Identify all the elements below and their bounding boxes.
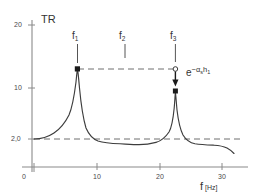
y-tick-label-10: 10 [14,84,22,91]
y-tick-label-2-0: 2,0 [11,135,21,142]
x-tick-label-20: 20 [156,173,164,180]
x-axis-unit: [Hz] [205,184,217,191]
y-axis-title: TR [41,14,56,25]
transfer-ratio-curve [34,69,234,154]
f1-label: f1 [72,31,78,41]
reference-level-marker [173,67,178,72]
annot-exponent: −αsh1 [192,65,211,74]
f2-label: f2 [119,31,125,41]
x-axis-title: f[Hz] [200,181,218,192]
plot-area [0,0,254,195]
peak-drop-arrow-head [172,80,178,87]
f2-subscript: 2 [122,35,126,42]
peak-1-marker [75,66,80,71]
peak-3-marker [173,89,178,94]
annot-alpha-subscript: s [200,69,203,75]
chart-figure: TR 20 10 2,0 0 10 20 30 f[Hz] f1 f2 f3 e… [0,0,254,195]
x-tick-label-10: 10 [93,173,101,180]
y-tick-label-20: 20 [14,21,22,28]
x-tick-label-30: 30 [218,173,226,180]
f1-subscript: 1 [75,35,79,42]
attenuation-annotation: e−αsh1 [186,68,210,78]
annot-alpha: −α [192,65,201,74]
f3-subscript: 3 [173,35,177,42]
y-tick-label-0: 0 [22,173,26,180]
x-axis-symbol: f [200,180,203,192]
f3-label: f3 [170,31,176,41]
annot-h-subscript: 1 [207,69,210,75]
